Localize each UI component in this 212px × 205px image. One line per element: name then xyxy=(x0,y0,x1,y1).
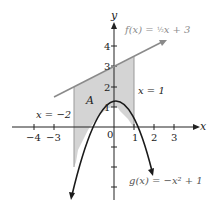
region-label: A xyxy=(85,94,94,107)
x-tick-label: −3 xyxy=(46,132,61,143)
x-axis-label: x xyxy=(200,120,207,133)
area-diagram: −4 −3 0 1 2 3 1 2 3 4 x y f(x) = ½x + 3 … xyxy=(0,0,212,205)
y-axis-arrow-icon xyxy=(111,22,117,29)
y-tick-label: 3 xyxy=(104,61,110,72)
y-tick-label: 2 xyxy=(104,82,110,93)
curve-g-label: g(x) = −x² + 1 xyxy=(129,175,203,186)
y-axis-label: y xyxy=(110,9,118,22)
x-tick-label: 3 xyxy=(171,132,177,143)
x-axis-arrow-icon xyxy=(193,124,200,130)
y-tick-label: 1 xyxy=(104,102,110,113)
bound-label-left: x = −2 xyxy=(36,109,71,120)
x-tick-label: 2 xyxy=(151,132,157,143)
curve-f-label: f(x) = ½x + 3 xyxy=(124,24,190,35)
x-tick-label: −4 xyxy=(26,132,41,143)
bound-label-right: x = 1 xyxy=(138,85,165,96)
curve-g-arrow-left-icon xyxy=(69,192,75,200)
x-tick-label: 1 xyxy=(132,132,138,143)
x-tick-label: 0 xyxy=(107,129,113,140)
y-tick-label: 4 xyxy=(104,41,110,52)
